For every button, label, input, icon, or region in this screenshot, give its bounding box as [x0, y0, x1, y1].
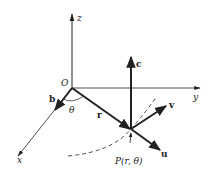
- origin-label: O: [61, 78, 69, 88]
- vector-diagram: z y x O b r c u v θ P(r, θ): [0, 0, 214, 173]
- z-axis-label: z: [76, 13, 82, 23]
- r-vector-label: r: [97, 110, 102, 120]
- u-vector: [131, 129, 160, 150]
- y-axis-label: y: [192, 92, 199, 102]
- dashed-arc: [68, 96, 157, 156]
- x-axis-label: x: [17, 155, 22, 165]
- v-vector-label: v: [168, 100, 175, 110]
- diagram-svg: z y x O b r c u v θ P(r, θ): [0, 0, 214, 173]
- c-vector-label: c: [136, 59, 142, 69]
- point-pointer: [130, 133, 131, 143]
- b-vector-label: b: [49, 94, 55, 104]
- point-p-label: P(r, θ): [114, 156, 143, 166]
- u-vector-label: u: [161, 149, 168, 159]
- theta-label: θ: [69, 105, 75, 115]
- v-vector: [131, 106, 166, 129]
- r-vector: [72, 88, 130, 129]
